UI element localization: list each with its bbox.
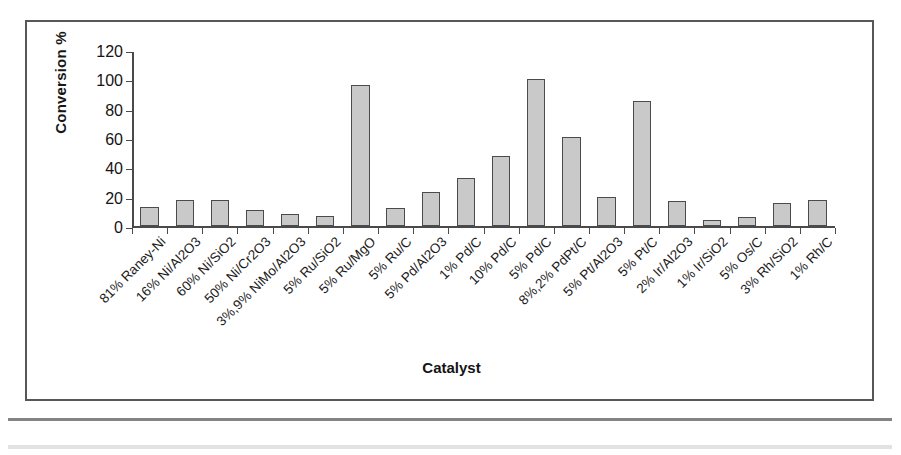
x-axis-title: Catalyst [27, 359, 876, 376]
y-tick-label: 0 [114, 219, 123, 237]
bar [140, 207, 158, 226]
y-tick-label: 60 [105, 131, 123, 149]
y-tick-label: 40 [105, 160, 123, 178]
y-axis-title: Conversion % [52, 0, 69, 168]
scan-artifact-line [8, 418, 892, 421]
y-tick-label: 80 [105, 102, 123, 120]
chart-figure-frame: Conversion % 020406080100120 81% Raney-N… [25, 20, 874, 401]
y-tick-label: 100 [96, 72, 123, 90]
scan-artifact-line-secondary [8, 445, 892, 449]
x-axis-tick-labels: 81% Raney-Ni16% Ni/Al2O360% Ni/SiO250% N… [132, 234, 835, 364]
y-tick-label: 20 [105, 190, 123, 208]
y-tick-label: 120 [96, 43, 123, 61]
figure-page: Conversion % 020406080100120 81% Raney-N… [0, 0, 901, 455]
